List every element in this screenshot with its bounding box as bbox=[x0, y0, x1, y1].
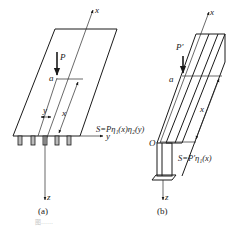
z-axis-label-a: z bbox=[46, 192, 51, 202]
figure-a-label: (a) bbox=[38, 206, 48, 216]
x-dim-label-a: x bbox=[61, 108, 66, 118]
x-axis-label-a: x bbox=[94, 5, 99, 15]
distance-a-label-b: a bbox=[169, 74, 174, 84]
beam-front-face bbox=[157, 143, 172, 176]
distance-a-label: a bbox=[49, 73, 54, 83]
line-a1 bbox=[38, 78, 57, 136]
x-dim-label-b: x bbox=[199, 104, 204, 114]
formula-a: S=Pη₁(x)η₂(y) bbox=[96, 124, 145, 134]
beam-top bbox=[166, 34, 225, 143]
z-axis-label-b: z bbox=[164, 192, 169, 202]
figure-a: x P a x y y z (a) S=Pη₁(x)η₂(y) bbox=[13, 5, 145, 216]
load-label-p: P bbox=[59, 52, 66, 62]
structural-load-diagram: x P a x y y z (a) S=Pη₁(x)η₂(y) bbox=[0, 0, 228, 226]
girders bbox=[18, 136, 71, 145]
y-dim-label-a: y bbox=[42, 105, 47, 115]
figure-caption: 图…… bbox=[35, 218, 53, 226]
origin-label: O bbox=[149, 138, 156, 148]
figure-b-label: (b) bbox=[157, 206, 168, 216]
figure-b: x P′ a O x S=P′η₁(x) z (b) bbox=[149, 7, 225, 216]
formula-b: S=P′η₁(x) bbox=[178, 153, 212, 163]
load-label-p-prime: P′ bbox=[175, 42, 184, 52]
x-axis-label-b: x bbox=[209, 7, 214, 17]
deck-plate bbox=[13, 29, 117, 136]
